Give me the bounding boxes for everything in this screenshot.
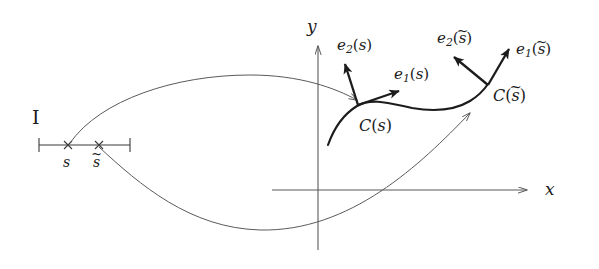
- tick-label-s: s: [63, 155, 70, 169]
- vector-label-e1-s: e1(s): [394, 67, 429, 85]
- vector-e2-s: [345, 64, 358, 105]
- e-glyph: e: [337, 36, 346, 54]
- tilde-accent: ~: [536, 35, 548, 49]
- arg-s: s: [378, 116, 386, 135]
- vector-label-e1-s-tilde: e1(~s): [516, 42, 551, 60]
- C-glyph: C: [493, 86, 505, 105]
- interval-label: I: [32, 108, 40, 127]
- x-axis-label: x: [545, 181, 555, 198]
- tilde-accent: ~: [91, 148, 102, 161]
- C-glyph: C: [359, 116, 371, 135]
- frame-at-s: [345, 64, 399, 105]
- mapping-arrow-s-tilde: [99, 113, 470, 230]
- curve-frame-diagram: I s ~s y x C(s) C(~s) e1(s) e2(s) e2(~s)…: [0, 0, 599, 269]
- diagram-canvas: [0, 0, 599, 269]
- e-glyph: e: [516, 40, 525, 58]
- point-label-C-of-s: C(s): [359, 118, 392, 134]
- interval-ruler: [39, 138, 130, 152]
- close-paren: ): [366, 36, 372, 54]
- e-glyph: e: [437, 29, 446, 47]
- frame-at-s-tilde: [454, 49, 509, 85]
- y-axis-label: y: [307, 18, 317, 35]
- point-label-C-of-s-tilde: C(~s): [493, 88, 526, 104]
- subscript: 1: [525, 47, 532, 60]
- vector-label-e2-s: e2(s): [337, 38, 372, 56]
- close-paren: ): [423, 65, 429, 83]
- tilde-accent: ~: [457, 24, 469, 38]
- subscript: 2: [446, 36, 453, 49]
- vector-e2-s-tilde: [454, 57, 488, 85]
- e-glyph: e: [394, 65, 403, 83]
- vector-e1-s-tilde: [488, 49, 509, 85]
- close-paren: ): [386, 116, 392, 135]
- vector-label-e2-s-tilde: e2(~s): [437, 31, 472, 49]
- mapping-arrow-s: [70, 75, 357, 143]
- subscript: 2: [346, 43, 353, 56]
- subscript: 1: [403, 72, 410, 85]
- curve-C: [328, 84, 488, 145]
- tick-label-s-tilde: ~s: [93, 155, 100, 169]
- tilde-accent: ~: [509, 80, 521, 95]
